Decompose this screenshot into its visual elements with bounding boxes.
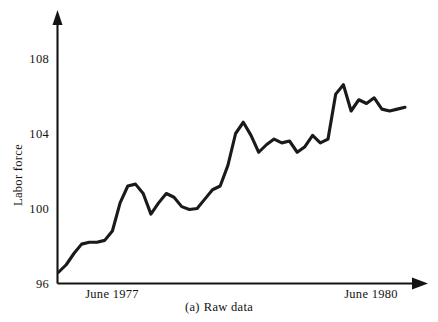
caption-title: Raw data — [204, 300, 253, 314]
y-tick-label-96: 96 — [36, 277, 49, 291]
figure-raw-data: 108 104 100 96 Labor force June 1977 Jun… — [0, 0, 438, 322]
y-tick-label-104: 104 — [29, 127, 49, 141]
y-tick-label-108: 108 — [29, 52, 49, 66]
y-axis-up-arrow-icon — [53, 10, 63, 25]
y-axis-title: Labor force — [11, 144, 25, 206]
x-axis-right-arrow-icon — [412, 278, 428, 290]
data-series-labor-force — [59, 85, 406, 273]
figure-caption: (a)Raw data — [0, 300, 438, 315]
caption-label: (a) — [185, 300, 200, 314]
y-tick-label-100: 100 — [29, 202, 49, 216]
x-tick-label-june-1977: June 1977 — [85, 287, 139, 301]
x-tick-label-june-1980: June 1980 — [344, 287, 398, 301]
line-chart: 108 104 100 96 Labor force June 1977 Jun… — [0, 0, 438, 322]
